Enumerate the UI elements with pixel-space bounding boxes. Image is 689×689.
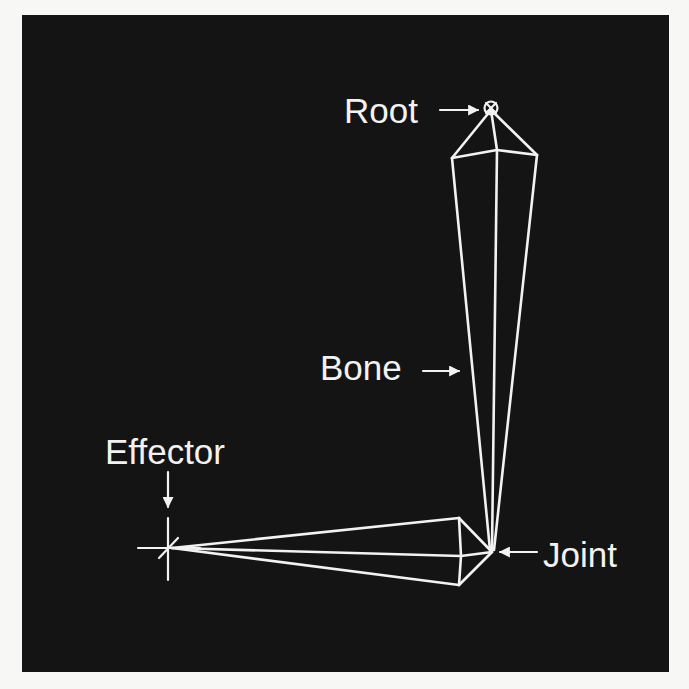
- joint-label: Joint: [543, 537, 617, 572]
- upper-bone: [452, 110, 537, 550]
- lower-bone: [172, 518, 492, 585]
- effector-crosshair-icon: [138, 518, 200, 580]
- bone-label: Bone: [320, 350, 402, 385]
- effector-label: Effector: [105, 434, 225, 469]
- root-label: Root: [344, 93, 418, 128]
